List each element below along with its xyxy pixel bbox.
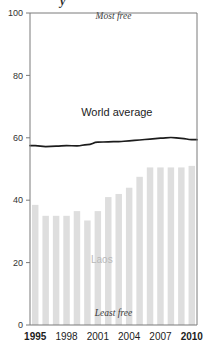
bars-layer (32, 166, 195, 325)
world-average-line-layer (30, 137, 197, 146)
x-tick-label-2001: 2001 (87, 331, 110, 342)
annotation-laos-label: Laos (91, 254, 113, 265)
bar-2000 (84, 220, 90, 325)
bar-2004 (126, 188, 132, 325)
world-average-line (30, 137, 197, 146)
bar-2010 (189, 166, 195, 325)
y-tick-label-60: 60 (13, 133, 23, 143)
x-tick-label-2010: 2010 (181, 331, 204, 342)
bar-2007 (157, 167, 163, 325)
chart-title-fragment: y (60, 0, 66, 9)
bar-2006 (147, 167, 153, 325)
bar-1999 (74, 211, 80, 325)
freedom-index-chart: y Most freeLeast freeLaosWorld average 0… (0, 0, 206, 358)
annotation-world-average: World average (81, 106, 152, 118)
x-tick-label-2004: 2004 (118, 331, 141, 342)
bar-1998 (63, 216, 69, 325)
annotation-least-free: Least free (94, 308, 132, 318)
y-tick-label-20: 20 (13, 258, 23, 268)
y-tick-label-80: 80 (13, 71, 23, 81)
y-tick-label-40: 40 (13, 195, 23, 205)
y-axis-ticks: 020406080100 (8, 8, 30, 330)
bar-1995 (32, 205, 38, 325)
bar-1997 (53, 216, 59, 325)
x-axis-ticks: 199519982001200420072010 (24, 331, 203, 342)
bar-2005 (136, 177, 142, 325)
bar-2008 (168, 167, 174, 325)
bar-2009 (178, 167, 184, 325)
y-tick-label-0: 0 (18, 320, 23, 330)
bar-1996 (42, 216, 48, 325)
x-tick-label-2007: 2007 (149, 331, 172, 342)
bar-2003 (115, 194, 121, 325)
x-tick-label-1995: 1995 (24, 331, 47, 342)
chart-plot-area: Most freeLeast freeLaosWorld average 020… (0, 0, 206, 358)
y-tick-label-100: 100 (8, 8, 23, 18)
x-tick-label-1998: 1998 (55, 331, 78, 342)
